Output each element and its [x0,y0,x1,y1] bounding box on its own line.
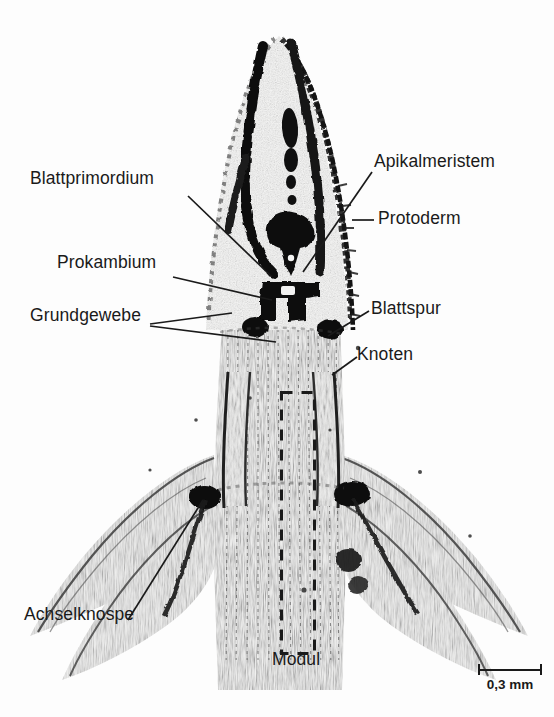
scale-bar-line [478,669,542,671]
label-apikalmeristem: Apikalmeristem [374,153,495,171]
label-knoten: Knoten [357,346,413,364]
label-grundgewebe: Grundgewebe [30,307,141,325]
scale-bar: 0,3 mm [478,664,542,692]
label-prokambium: Prokambium [57,254,156,272]
scale-bar-label: 0,3 mm [478,677,542,692]
figure-shoot-apex-micrograph: mechanism und los ( - ) sind 2.1 Der mec… [0,0,554,717]
label-modul: Modul [272,651,320,669]
scale-bar-right-cap [540,664,542,675]
label-achselknospe: Achselknospe [24,606,134,624]
label-blattspur: Blattspur [371,300,441,318]
scale-bar-rule [478,664,542,675]
label-blattprimordium: Blattprimordium [30,170,154,188]
label-protoderm: Protoderm [378,210,461,228]
